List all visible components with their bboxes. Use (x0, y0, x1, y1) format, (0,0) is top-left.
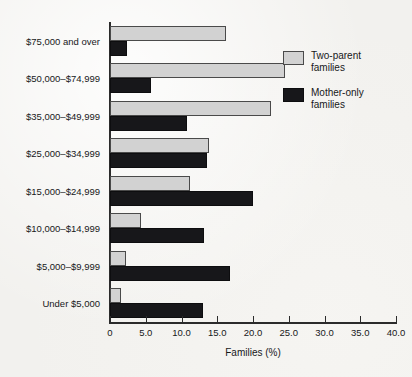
x-tick-label: 30.0 (315, 327, 334, 338)
legend-swatch-mother-only (283, 88, 304, 102)
legend-label: Mother-onlyfamilies (311, 87, 364, 110)
bar-two-parent (110, 251, 126, 266)
legend-item: Mother-onlyfamilies (283, 87, 408, 110)
category-label: $10,000–$14,999 (26, 223, 100, 234)
category-label: $15,000–$24,999 (26, 185, 100, 196)
category-label: $25,000–$34,999 (26, 148, 100, 159)
x-tick-mark (182, 316, 183, 324)
bar-mother-only (110, 191, 253, 206)
legend-label-line: families (311, 62, 361, 74)
bar-two-parent (110, 176, 190, 191)
category-label: $5,000–$9,999 (37, 260, 100, 271)
x-tick-mark (325, 316, 326, 324)
x-tick-label: 0 (107, 327, 112, 338)
bar-mother-only (110, 78, 151, 93)
bar-mother-only (110, 116, 187, 131)
legend-label: Two-parentfamilies (311, 50, 361, 73)
category-label: $35,000–$49,999 (26, 110, 100, 121)
bar-two-parent (110, 288, 121, 303)
x-tick-mark (217, 316, 218, 324)
category-label: Under $5,000 (42, 298, 100, 309)
x-tick-label: 20.0 (244, 327, 263, 338)
bar-mother-only (110, 266, 230, 281)
legend-item: Two-parentfamilies (283, 50, 408, 73)
bar-two-parent (110, 63, 285, 78)
x-tick-label: 10.0 (172, 327, 191, 338)
bar-chart-figure: $75,000 and over$50,000–$74,999$35,000–$… (0, 0, 412, 377)
bar-two-parent (110, 213, 141, 228)
x-tick-mark (253, 316, 254, 324)
bar-mother-only (110, 153, 207, 168)
legend-label-line: Two-parent (311, 50, 361, 62)
legend-swatch-two-parent (283, 51, 304, 65)
x-tick-label: 5.0 (139, 327, 152, 338)
x-tick-mark (110, 316, 111, 324)
x-tick-mark (396, 316, 397, 324)
bar-mother-only (110, 228, 204, 243)
legend-label-line: Mother-only (311, 87, 364, 99)
x-tick-label: 15.0 (208, 327, 227, 338)
bar-two-parent (110, 26, 226, 41)
x-tick-label: 40.0 (387, 327, 406, 338)
category-axis-labels: $75,000 and over$50,000–$74,999$35,000–$… (0, 22, 104, 322)
x-tick-label: 35.0 (351, 327, 370, 338)
bar-mother-only (110, 303, 203, 318)
legend-label-line: families (311, 99, 364, 111)
x-axis-title: Families (%) (225, 347, 281, 358)
bar-mother-only (110, 41, 127, 56)
bar-two-parent (110, 138, 209, 153)
bar-two-parent (110, 101, 271, 116)
chart-legend: Two-parentfamiliesMother-onlyfamilies (283, 50, 408, 124)
x-tick-mark (289, 316, 290, 324)
x-tick-mark (146, 316, 147, 324)
x-tick-label: 25.0 (280, 327, 299, 338)
category-label: $50,000–$74,999 (26, 73, 100, 84)
category-label: $75,000 and over (26, 35, 100, 46)
x-tick-mark (360, 316, 361, 324)
